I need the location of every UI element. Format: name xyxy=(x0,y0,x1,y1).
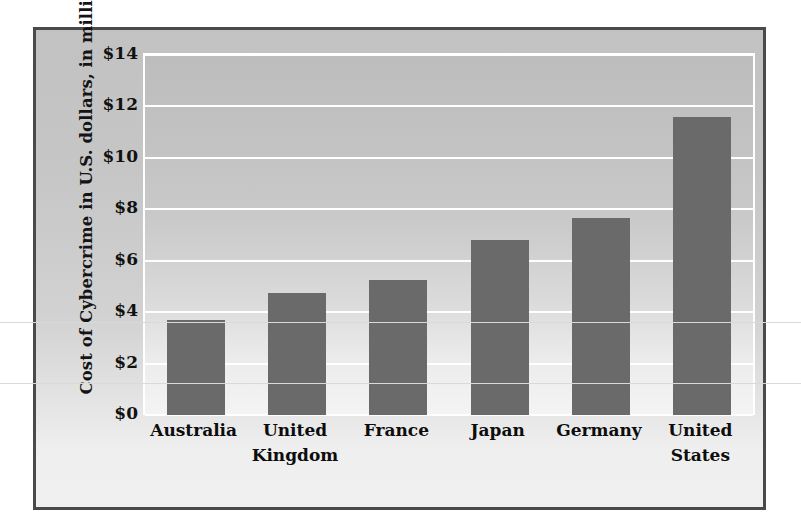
x-label-japan: Japan xyxy=(447,418,548,443)
plot-area xyxy=(143,53,755,415)
bar-japan xyxy=(471,240,529,415)
x-label-australia: Australia xyxy=(143,418,244,443)
x-label-line: United xyxy=(650,418,751,443)
y-tick-label-2: $2 xyxy=(114,352,138,372)
y-tick-label-4: $4 xyxy=(114,300,138,320)
bar-france xyxy=(369,280,427,415)
x-label-line: Germany xyxy=(548,418,649,443)
x-label-line: France xyxy=(346,418,447,443)
chart-figure-frame: Cost of Cybercrime in U.S. dollars, in m… xyxy=(33,27,766,510)
y-tick-label-12: $12 xyxy=(103,94,139,114)
x-label-line: Australia xyxy=(143,418,244,443)
bar-united-kingdom xyxy=(268,293,326,415)
y-tick-label-10: $10 xyxy=(103,146,139,166)
y-tick-label-0: $0 xyxy=(114,403,138,423)
bar-australia xyxy=(167,320,225,415)
x-label-united-states: UnitedStates xyxy=(650,418,751,467)
bar-united-states xyxy=(673,117,731,415)
x-axis-category-labels: AustraliaUnitedKingdomFranceJapanGermany… xyxy=(143,418,751,498)
y-tick-label-8: $8 xyxy=(114,197,138,217)
x-label-line: Japan xyxy=(447,418,548,443)
bar-germany xyxy=(572,218,630,415)
x-label-france: France xyxy=(346,418,447,443)
x-label-line: States xyxy=(650,443,751,468)
bars-layer xyxy=(145,55,753,415)
x-label-line: Kingdom xyxy=(244,443,345,468)
y-tick-label-14: $14 xyxy=(103,43,139,63)
y-tick-label-6: $6 xyxy=(114,249,138,269)
x-label-germany: Germany xyxy=(548,418,649,443)
x-label-united-kingdom: UnitedKingdom xyxy=(244,418,345,467)
x-label-line: United xyxy=(244,418,345,443)
y-axis-tick-labels: $0$2$4$6$8$10$12$14 xyxy=(82,53,138,413)
